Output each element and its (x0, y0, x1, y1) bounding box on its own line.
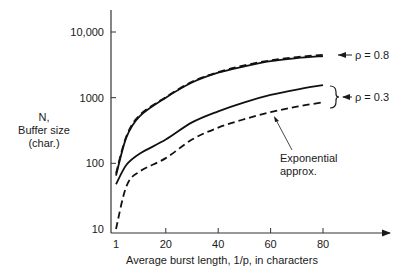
y-tick-label: 10 (92, 223, 104, 235)
y-axis-label-line-3: (char.) (28, 137, 59, 149)
exponential-approx-pointer-head (274, 116, 279, 122)
rho-03-label: ρ = 0.3 (355, 91, 389, 103)
x-tick-label: 20 (160, 238, 172, 250)
rho-03-arrowhead (342, 94, 350, 100)
chart: 10100100010,000 120406080 N, Buffer size… (0, 0, 416, 277)
rho-03-bracket (330, 86, 339, 108)
x-tick-label: 1 (113, 238, 119, 250)
x-tick-label: 60 (264, 238, 276, 250)
y-tick-label: 100 (86, 157, 104, 169)
rho-08-arrowhead (338, 52, 346, 58)
x-ticks: 120406080 (113, 228, 329, 250)
x-tick-label: 40 (212, 238, 224, 250)
x-tick-label: 80 (317, 238, 329, 250)
y-tick-label: 1000 (80, 92, 104, 104)
exponential-approx-pointer (275, 118, 292, 150)
series-group (116, 55, 323, 229)
y-ticks: 10100100010,000 (70, 26, 116, 235)
x-axis-label: Average burst length, 1/p, in characters (126, 254, 318, 266)
y-axis-label-line-1: N, (39, 111, 50, 123)
exponential-approx-label-line-2: approx. (280, 165, 317, 177)
y-axis-label-line-2: Buffer size (18, 124, 70, 136)
rho-08-label: ρ = 0.8 (355, 49, 389, 61)
y-tick-label: 10,000 (70, 26, 104, 38)
exponential-approx-label-line-1: Exponential (280, 152, 338, 164)
